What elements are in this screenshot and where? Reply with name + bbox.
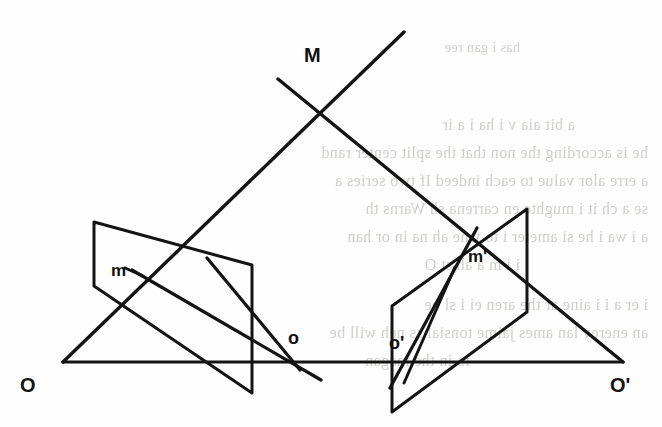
label-left-image-point: m	[111, 261, 126, 281]
right-plane-chord-inner	[404, 267, 455, 383]
label-left-center: O	[20, 374, 36, 397]
label-scene-point: M	[304, 44, 321, 67]
label-right-image-point: m'	[468, 247, 487, 267]
label-left-principal-point: o	[288, 328, 299, 349]
label-right-center: O'	[610, 374, 630, 397]
geometry-figure	[0, 0, 662, 427]
ray-M-to-O-prime	[278, 79, 623, 362]
right-image-plane	[392, 209, 527, 412]
figure-root: has i gan reea bit aia v i ha i a irhe i…	[0, 0, 662, 427]
left-plane-tick-m	[125, 268, 143, 276]
ray-O-to-M	[63, 32, 404, 362]
label-right-principal-point: o'	[389, 333, 404, 354]
right-plane-chord-o-prime-to-m-prime	[390, 228, 477, 388]
